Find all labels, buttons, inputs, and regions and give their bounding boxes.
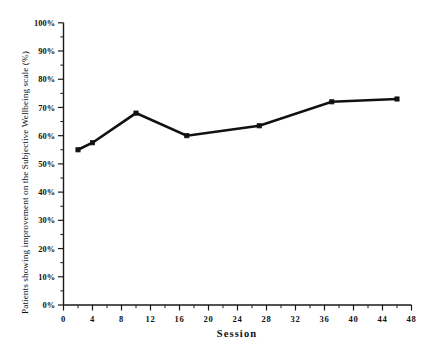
svg-text:48: 48 [407,314,417,324]
svg-text:0: 0 [61,314,66,324]
svg-text:36: 36 [320,314,330,324]
svg-text:16: 16 [175,314,185,324]
chart-figure: Patients showing improvement on the Subj… [0,0,434,352]
svg-text:44: 44 [378,314,388,324]
svg-text:12: 12 [146,314,156,324]
svg-text:10%: 10% [38,273,55,282]
svg-text:0%: 0% [42,301,55,310]
svg-text:32: 32 [291,314,301,324]
svg-text:28: 28 [262,314,272,324]
svg-text:30%: 30% [38,216,55,225]
svg-text:40%: 40% [38,188,55,197]
svg-text:24: 24 [233,314,243,324]
svg-text:100%: 100% [34,19,55,28]
x-axis-title: Session [63,328,411,339]
svg-text:20: 20 [204,314,214,324]
svg-text:60%: 60% [38,132,55,141]
data-series-markers [76,97,399,152]
svg-text:70%: 70% [38,104,55,113]
svg-text:50%: 50% [38,160,55,169]
svg-text:4: 4 [90,314,95,324]
y-axis-ticks: 0%10%20%30%40%50%60%70%80%90%100% [34,19,63,310]
svg-text:40: 40 [349,314,359,324]
svg-text:80%: 80% [38,75,55,84]
chart-plot-area: 0%10%20%30%40%50%60%70%80%90%100% 048121… [0,0,434,352]
svg-text:20%: 20% [38,245,55,254]
svg-text:90%: 90% [38,47,55,56]
data-series-line [78,99,397,150]
x-axis-ticks: 04812162024283236404448 [61,305,416,324]
svg-text:8: 8 [119,314,124,324]
